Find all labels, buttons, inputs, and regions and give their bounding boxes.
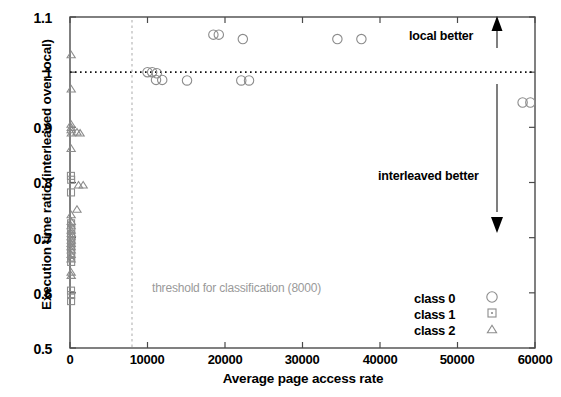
scatter-chart-figure: Execution time ratio (interleaved over l… — [0, 0, 561, 397]
axes-frame — [70, 17, 535, 348]
direction-arrows — [491, 16, 503, 233]
data-point-markers — [67, 30, 535, 305]
reference-lines — [70, 20, 535, 348]
tick-marks — [70, 17, 535, 348]
plot-canvas — [0, 0, 561, 397]
legend-markers — [487, 292, 497, 333]
